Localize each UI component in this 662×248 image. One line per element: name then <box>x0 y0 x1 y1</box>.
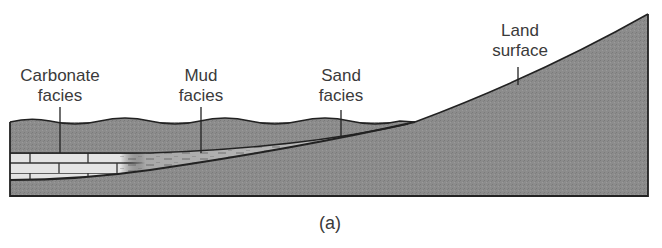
label-line: Land <box>484 21 556 41</box>
label-line: facies <box>8 86 112 106</box>
label-line: Mud <box>170 66 232 86</box>
label-line: Carbonate <box>8 66 112 86</box>
label-land-surface: Land surface <box>484 21 556 61</box>
label-line: facies <box>170 86 232 106</box>
label-carbonate-facies: Carbonate facies <box>8 66 112 106</box>
facies-cross-section <box>0 0 662 248</box>
label-line: surface <box>484 41 556 61</box>
label-line: facies <box>310 86 372 106</box>
label-mud-facies: Mud facies <box>170 66 232 106</box>
figure-caption: (a) <box>310 213 350 234</box>
label-sand-facies: Sand facies <box>310 66 372 106</box>
label-line: Sand <box>310 66 372 86</box>
